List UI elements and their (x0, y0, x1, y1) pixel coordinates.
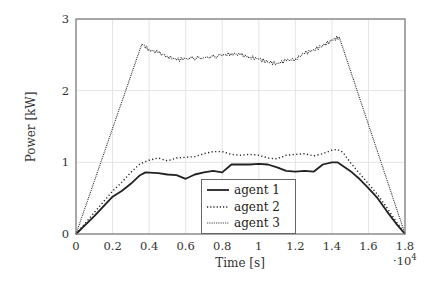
x-tick-label: 0.6 (177, 239, 195, 253)
dense-dotted-line-icon (206, 220, 230, 226)
x-tick-label: 0.8 (213, 239, 231, 253)
x-tick-label: 0.2 (103, 239, 121, 253)
legend-label: agent 1 (234, 183, 280, 197)
y-axis-ticks: 0123 (62, 12, 69, 241)
line-chart: 00.20.40.60.811.21.41.61.8 0123 Time [s]… (0, 0, 433, 284)
y-tick-label: 1 (62, 155, 69, 169)
legend-label: agent 2 (234, 200, 280, 214)
x-axis-ticks: 00.20.40.60.811.21.41.61.8 (72, 239, 414, 253)
x-tick-label: 0 (72, 239, 79, 253)
y-tick-label: 3 (62, 12, 69, 26)
x-tick-label: 1 (255, 239, 262, 253)
legend: agent 1 agent 2 agent 3 (201, 179, 296, 234)
dotted-line-icon (206, 204, 230, 210)
x-tick-label: 1.6 (359, 239, 377, 253)
x-tick-label: 1.4 (323, 239, 341, 253)
y-tick-label: 0 (62, 227, 69, 241)
y-tick-label: 2 (62, 84, 69, 98)
legend-item-agent-3: agent 3 (206, 215, 291, 232)
legend-item-agent-2: agent 2 (206, 199, 291, 216)
x-tick-label: 0.4 (140, 239, 158, 253)
x-multiplier: ·104 (393, 252, 417, 268)
x-tick-label: 1.8 (396, 239, 414, 253)
solid-line-icon (206, 187, 230, 193)
x-tick-label: 1.2 (286, 239, 304, 253)
legend-label: agent 3 (234, 216, 280, 230)
x-axis-label: Time [s] (215, 256, 265, 270)
legend-item-agent-1: agent 1 (206, 182, 291, 199)
y-axis-label: Power [kW] (24, 92, 38, 163)
